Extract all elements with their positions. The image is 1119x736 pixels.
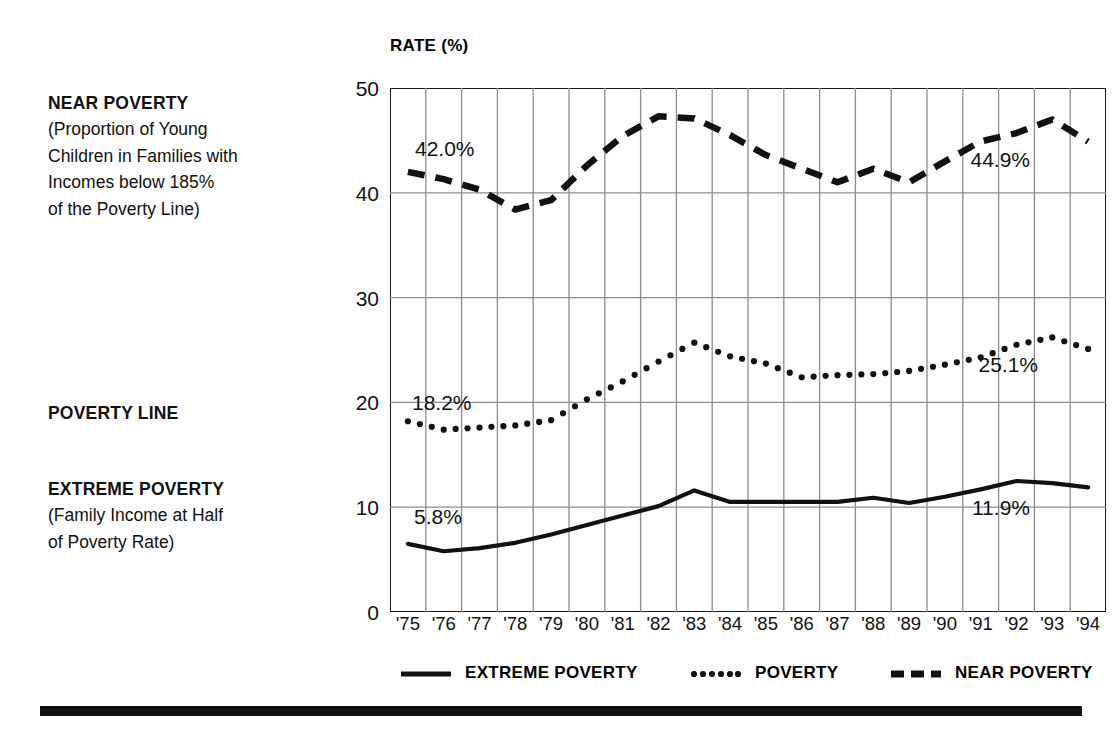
annotation-extreme-poverty-line-1: of Poverty Rate) — [48, 529, 338, 556]
x-tick-93: '93 — [1040, 615, 1064, 634]
y-tick-20: 20 — [356, 392, 379, 413]
x-tick-81: '81 — [611, 615, 635, 634]
legend-item-extreme-poverty[interactable]: EXTREME POVERTY — [400, 660, 638, 686]
legend-item-poverty[interactable]: POVERTY — [690, 660, 838, 686]
legend-swatch-dashed — [890, 665, 942, 681]
annotation-near-poverty-title: NEAR POVERTY — [48, 90, 338, 116]
label-poverty-end: 25.1% — [978, 354, 1038, 375]
annotation-near-poverty: NEAR POVERTY (Proportion of Young Childr… — [48, 90, 338, 222]
x-tick-89: '89 — [897, 615, 921, 634]
x-tick-88: '88 — [861, 615, 885, 634]
x-tick-85: '85 — [754, 615, 778, 634]
label-near-poverty-end: 44.9% — [970, 149, 1030, 170]
x-tick-79: '79 — [539, 615, 563, 634]
y-tick-50: 50 — [356, 78, 379, 99]
label-extreme-poverty-start: 5.8% — [414, 506, 462, 527]
x-tick-84: '84 — [718, 615, 742, 634]
annotation-near-poverty-line-2: Incomes below 185% — [48, 169, 338, 196]
y-tick-30: 30 — [356, 287, 379, 308]
legend-item-near-poverty[interactable]: NEAR POVERTY — [890, 660, 1093, 686]
x-tick-78: '78 — [503, 615, 527, 634]
x-tick-86: '86 — [790, 615, 814, 634]
legend-swatch-solid — [400, 665, 452, 681]
annotation-extreme-poverty-title: EXTREME POVERTY — [48, 476, 338, 502]
x-tick-82: '82 — [646, 615, 670, 634]
x-tick-80: '80 — [575, 615, 599, 634]
y-axis-title: RATE (%) — [390, 36, 469, 56]
x-tick-83: '83 — [682, 615, 706, 634]
x-tick-90: '90 — [933, 615, 957, 634]
legend-label: NEAR POVERTY — [955, 663, 1093, 683]
annotation-poverty-line: POVERTY LINE — [48, 400, 338, 426]
x-tick-77: '77 — [467, 615, 491, 634]
x-tick-75: '75 — [396, 615, 420, 634]
annotation-poverty-line-title: POVERTY LINE — [48, 400, 338, 426]
chart-legend: EXTREME POVERTYPOVERTYNEAR POVERTY — [390, 660, 1106, 686]
chart-page: NEAR POVERTY (Proportion of Young Childr… — [0, 0, 1119, 736]
x-tick-87: '87 — [825, 615, 849, 634]
y-tick-0: 0 — [367, 602, 379, 623]
chart-plot-area: 01020304050 '75'76'77'78'79'80'81'82'83'… — [390, 88, 1106, 612]
annotation-extreme-poverty-line-0: (Family Income at Half — [48, 502, 338, 529]
label-extreme-poverty-end: 11.9% — [972, 497, 1030, 518]
legend-label: EXTREME POVERTY — [465, 663, 638, 683]
label-poverty-start: 18.2% — [412, 392, 472, 413]
legend-label: POVERTY — [755, 663, 838, 683]
annotation-near-poverty-line-1: Children in Families with — [48, 143, 338, 170]
y-tick-40: 40 — [356, 182, 379, 203]
label-near-poverty-start: 42.0% — [415, 138, 475, 159]
x-tick-76: '76 — [432, 615, 456, 634]
footer-rule — [40, 706, 1082, 716]
x-tick-94: '94 — [1076, 615, 1100, 634]
annotation-near-poverty-line-3: of the Poverty Line) — [48, 196, 338, 223]
y-tick-10: 10 — [356, 497, 379, 518]
annotation-near-poverty-line-0: (Proportion of Young — [48, 116, 338, 143]
x-tick-91: '91 — [969, 615, 993, 634]
legend-swatch-dotted — [690, 665, 742, 681]
annotation-extreme-poverty: EXTREME POVERTY (Family Income at Half o… — [48, 476, 338, 555]
x-tick-92: '92 — [1004, 615, 1028, 634]
